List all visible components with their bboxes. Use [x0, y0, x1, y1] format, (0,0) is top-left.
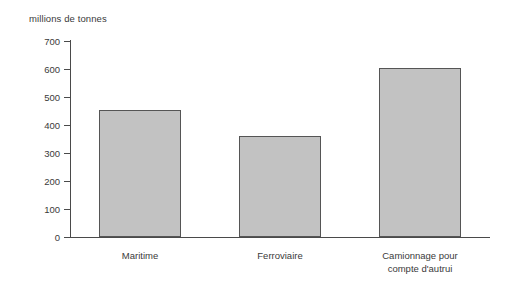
y-axis-unit-title: millions de tonnes [29, 13, 107, 24]
y-axis-tick-label-slot: 0 [14, 237, 60, 238]
y-axis-tick-label-slot: 200 [14, 181, 60, 182]
x-axis-category-label: Camionnage pourcompte d'autrui [350, 249, 490, 275]
y-axis-tick-label: 400 [18, 120, 60, 131]
y-axis-tick-label: 100 [18, 204, 60, 215]
y-axis-tick-label-slot: 300 [14, 153, 60, 154]
x-axis-category-label-line: Maritime [70, 249, 210, 262]
x-axis-line [70, 237, 490, 238]
y-axis-tick-label-slot: 500 [14, 97, 60, 98]
x-axis-category-label-line: Ferroviaire [210, 249, 350, 262]
y-axis-tick-label: 700 [18, 36, 60, 47]
y-axis-tick-mark [64, 97, 70, 98]
y-axis-tick-label: 600 [18, 64, 60, 75]
y-axis-tick-mark [64, 69, 70, 70]
x-axis-category-label-line: compte d'autrui [350, 262, 490, 275]
y-axis-tick-mark [64, 41, 70, 42]
x-axis-category-label: Maritime [70, 249, 210, 262]
y-axis-tick-mark [64, 125, 70, 126]
x-axis-category-label-line: Camionnage pour [350, 249, 490, 262]
y-axis-tick-label-slot: 700 [14, 41, 60, 42]
y-axis-tick-label-slot: 600 [14, 69, 60, 70]
bar [239, 136, 321, 237]
y-axis-tick-label-slot: 100 [14, 209, 60, 210]
y-axis-tick-mark [64, 209, 70, 210]
y-axis-tick-label: 200 [18, 176, 60, 187]
x-axis-category-label: Ferroviaire [210, 249, 350, 262]
y-axis-tick-mark [64, 153, 70, 154]
bar-chart-figure: millions de tonnes 010020030040050060070… [0, 0, 519, 285]
bar [99, 110, 181, 237]
bar [379, 68, 461, 237]
y-axis-tick-mark [64, 181, 70, 182]
y-axis-tick-label: 500 [18, 92, 60, 103]
y-axis-tick-label: 300 [18, 148, 60, 159]
y-axis-line [70, 40, 71, 238]
y-axis-tick-label: 0 [18, 232, 60, 243]
y-axis-tick-mark [64, 237, 70, 238]
y-axis-tick-label-slot: 400 [14, 125, 60, 126]
